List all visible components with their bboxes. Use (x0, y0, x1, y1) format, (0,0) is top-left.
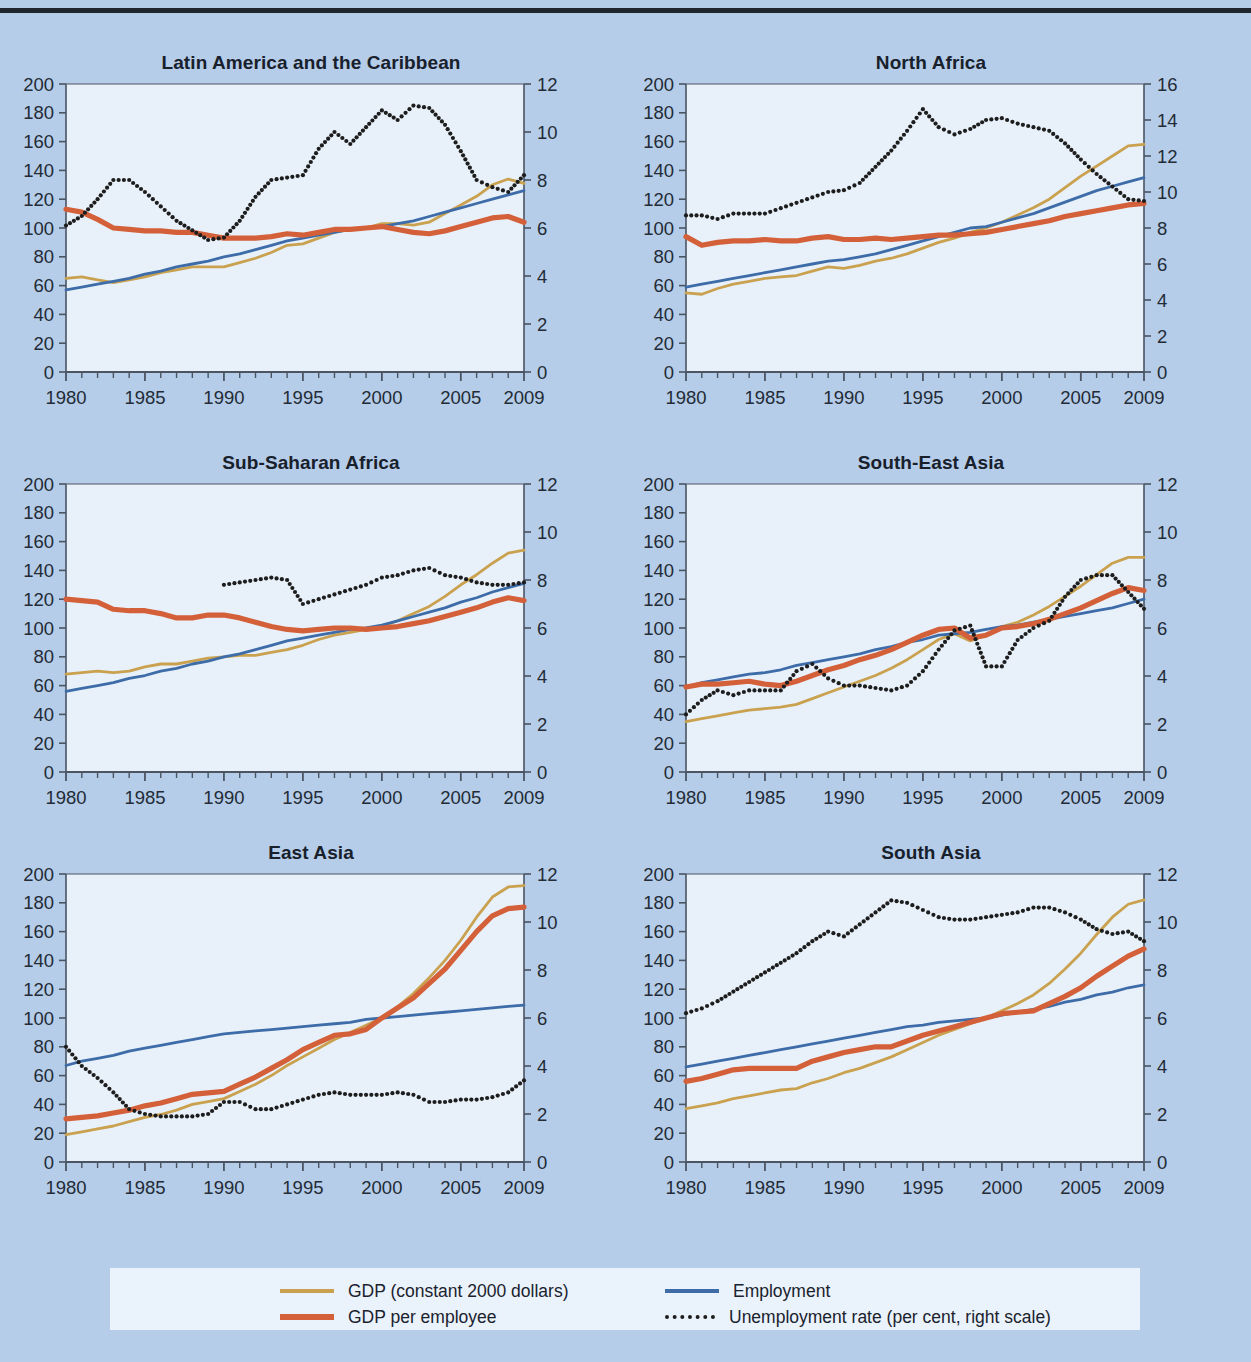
x-axis-tick-label: 2009 (503, 787, 544, 808)
legend: GDP (constant 2000 dollars)EmploymentGDP… (110, 1268, 1140, 1330)
x-axis-tick-label: 2005 (440, 387, 481, 408)
x-axis-tick-label: 2009 (503, 387, 544, 408)
y-axis-tick-label: 200 (643, 74, 674, 95)
y-axis-tick-label: 100 (23, 218, 54, 239)
x-axis-tick-label: 1985 (744, 1177, 785, 1198)
y-axis-tick-label: 20 (653, 333, 674, 354)
y-axis-tick-label: 160 (643, 531, 674, 552)
y-axis-right-tick-label: 12 (537, 74, 558, 95)
panel-title: East Asia (16, 842, 606, 864)
y-axis-right-tick-label: 12 (1157, 474, 1178, 495)
y-axis-tick-label: 180 (643, 502, 674, 523)
y-axis-tick-label: 80 (653, 646, 674, 667)
y-axis-right-tick-label: 2 (1157, 714, 1167, 735)
y-axis-tick-label: 20 (653, 1123, 674, 1144)
y-axis-tick-label: 20 (33, 733, 54, 754)
x-axis-tick-label: 2000 (981, 1177, 1022, 1198)
y-axis-tick-label: 40 (653, 704, 674, 725)
y-axis-tick-label: 80 (653, 246, 674, 267)
y-axis-right-tick-label: 4 (537, 266, 547, 287)
panel-title: Latin America and the Caribbean (16, 52, 606, 74)
y-axis-right-tick-label: 12 (537, 474, 558, 495)
chart-svg: 0204060801001201401601802000246810121980… (16, 74, 606, 434)
x-axis-tick-label: 1990 (203, 387, 244, 408)
x-axis-tick-label: 1985 (744, 787, 785, 808)
x-axis-tick-label: 1980 (45, 387, 86, 408)
y-axis-tick-label: 140 (643, 950, 674, 971)
legend-item: Unemployment rate (per cent, right scale… (665, 1304, 1051, 1330)
y-axis-tick-label: 0 (44, 762, 54, 783)
y-axis-right-tick-label: 12 (537, 864, 558, 885)
y-axis-tick-label: 60 (653, 675, 674, 696)
x-axis-tick-label: 2009 (503, 1177, 544, 1198)
y-axis-tick-label: 180 (23, 892, 54, 913)
x-axis-tick-label: 2009 (1123, 387, 1164, 408)
chart-svg: 0204060801001201401601802000246810121980… (16, 864, 606, 1224)
y-axis-tick-label: 160 (643, 921, 674, 942)
y-axis-right-tick-label: 2 (1157, 326, 1167, 347)
y-axis-tick-label: 0 (44, 362, 54, 383)
x-axis-tick-label: 1990 (203, 1177, 244, 1198)
legend-label: GDP (constant 2000 dollars) (348, 1281, 569, 1302)
y-axis-tick-label: 120 (23, 189, 54, 210)
x-axis-tick-label: 1980 (665, 387, 706, 408)
x-axis-tick-label: 2000 (981, 787, 1022, 808)
panel-title: South-East Asia (636, 452, 1226, 474)
y-axis-right-tick-label: 2 (537, 714, 547, 735)
y-axis-right-tick-label: 4 (537, 1056, 547, 1077)
line-swatch-blue (665, 1289, 719, 1293)
chart-svg: 0204060801001201401601802000246810121980… (636, 864, 1226, 1224)
x-axis-tick-label: 1985 (124, 387, 165, 408)
y-axis-tick-label: 100 (643, 218, 674, 239)
x-axis-tick-label: 1995 (902, 1177, 943, 1198)
y-axis-right-tick-label: 12 (1157, 864, 1178, 885)
x-axis-tick-label: 1980 (45, 787, 86, 808)
y-axis-tick-label: 200 (23, 474, 54, 495)
y-axis-tick-label: 140 (643, 560, 674, 581)
y-axis-tick-label: 0 (664, 762, 674, 783)
y-axis-right-tick-label: 6 (1157, 1008, 1167, 1029)
y-axis-tick-label: 140 (643, 160, 674, 181)
y-axis-tick-label: 140 (23, 950, 54, 971)
x-axis-tick-label: 2005 (440, 787, 481, 808)
y-axis-right-tick-label: 0 (537, 762, 547, 783)
x-axis-tick-label: 1995 (282, 387, 323, 408)
plot-background (686, 84, 1144, 372)
y-axis-tick-label: 180 (643, 892, 674, 913)
y-axis-right-tick-label: 10 (537, 522, 558, 543)
y-axis-right-tick-label: 2 (537, 1104, 547, 1125)
x-axis-tick-label: 2005 (440, 1177, 481, 1198)
legend-label: Unemployment rate (per cent, right scale… (729, 1307, 1051, 1328)
y-axis-tick-label: 100 (643, 1008, 674, 1029)
y-axis-tick-label: 200 (643, 864, 674, 885)
y-axis-tick-label: 180 (23, 502, 54, 523)
y-axis-tick-label: 0 (664, 362, 674, 383)
x-axis-tick-label: 2005 (1060, 1177, 1101, 1198)
y-axis-right-tick-label: 6 (1157, 618, 1167, 639)
y-axis-right-tick-label: 8 (1157, 960, 1167, 981)
y-axis-right-tick-label: 4 (1157, 290, 1167, 311)
y-axis-right-tick-label: 10 (537, 912, 558, 933)
y-axis-tick-label: 60 (33, 275, 54, 296)
x-axis-tick-label: 1995 (902, 387, 943, 408)
y-axis-tick-label: 80 (653, 1036, 674, 1057)
y-axis-tick-label: 140 (23, 160, 54, 181)
y-axis-right-tick-label: 6 (1157, 254, 1167, 275)
panel-title: North Africa (636, 52, 1226, 74)
y-axis-tick-label: 200 (23, 74, 54, 95)
y-axis-right-tick-label: 0 (537, 1152, 547, 1173)
y-axis-tick-label: 40 (33, 304, 54, 325)
chart-panel: Latin America and the Caribbean020406080… (16, 40, 606, 440)
line-swatch-gold (280, 1289, 334, 1293)
line-swatch-orange (280, 1314, 334, 1320)
y-axis-right-tick-label: 8 (537, 570, 547, 591)
chart-panel: East Asia0204060801001201401601802000246… (16, 830, 606, 1230)
x-axis-tick-label: 1985 (124, 1177, 165, 1198)
y-axis-tick-label: 60 (33, 1065, 54, 1086)
legend-label: Employment (733, 1281, 830, 1302)
y-axis-tick-label: 60 (33, 675, 54, 696)
x-axis-tick-label: 2005 (1060, 387, 1101, 408)
y-axis-tick-label: 160 (23, 131, 54, 152)
y-axis-tick-label: 120 (643, 979, 674, 1000)
y-axis-tick-label: 80 (33, 646, 54, 667)
